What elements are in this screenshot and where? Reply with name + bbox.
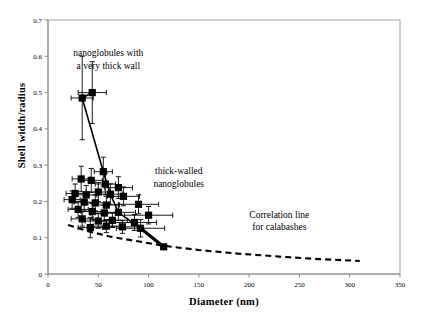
data-point-marker xyxy=(102,180,109,187)
data-point-marker xyxy=(137,225,144,232)
data-point-marker xyxy=(135,201,142,208)
annotation-thick-walled-nanoglobules: thick-walled xyxy=(155,166,203,176)
x-tick-label: 150 xyxy=(194,281,205,289)
data-point-marker xyxy=(72,190,79,197)
x-tick-label: 200 xyxy=(244,281,255,289)
data-point-marker xyxy=(81,199,88,206)
data-point-marker xyxy=(119,223,126,230)
annotation-nanoglobules-thick-wall: a very thick wall xyxy=(77,61,141,71)
y-tick-label: 0.7 xyxy=(33,17,42,25)
data-point-marker xyxy=(89,89,96,96)
data-point-marker xyxy=(107,191,114,198)
y-tick-label: 0.1 xyxy=(33,234,42,242)
data-point-marker xyxy=(95,188,102,195)
y-tick-label: 0 xyxy=(39,271,43,279)
tick-marks xyxy=(45,20,401,278)
x-axis-title: Diameter (nm) xyxy=(48,296,400,307)
data-point-marker xyxy=(79,94,86,101)
data-point-marker xyxy=(95,217,102,224)
x-tick-label: 350 xyxy=(395,281,406,289)
y-tick-label: 0.5 xyxy=(33,89,42,97)
x-tick-label: 0 xyxy=(46,281,50,289)
data-point-marker xyxy=(75,206,82,213)
annotation-correlation-line-calabashes: Correlation line xyxy=(249,210,309,220)
data-point-marker xyxy=(160,243,167,250)
data-point-marker xyxy=(103,201,110,208)
data-point-marker xyxy=(103,223,110,230)
y-tick-label: 0.6 xyxy=(33,53,42,61)
annotation-thick-walled-nanoglobules: nanoglobules xyxy=(153,179,204,189)
annotation-correlation-line-calabashes: for calabashes xyxy=(252,222,306,232)
x-tick-label: 50 xyxy=(95,281,103,289)
scatter-plot: 00.10.20.30.40.50.60.7050100150200250300… xyxy=(0,0,425,323)
correlation-line xyxy=(68,225,360,261)
data-point-marker xyxy=(92,199,99,206)
data-point-marker xyxy=(100,168,107,175)
data-point-marker xyxy=(88,177,95,184)
data-point-marker xyxy=(79,215,86,222)
x-tick-label: 300 xyxy=(344,281,355,289)
data-point-marker xyxy=(145,212,152,219)
x-tick-label: 250 xyxy=(294,281,305,289)
data-point-marker xyxy=(101,209,108,216)
data-point-marker xyxy=(83,191,90,198)
data-point-marker xyxy=(115,209,122,216)
chart-figure: Shell width/radius 00.10.20.30.40.50.60.… xyxy=(0,0,425,323)
annotation-nanoglobules-thick-wall: nanoglobules with xyxy=(73,48,143,58)
y-tick-label: 0.4 xyxy=(33,125,42,133)
data-point-marker xyxy=(87,224,94,231)
y-tick-label: 0.2 xyxy=(33,198,42,206)
x-tick-label: 100 xyxy=(143,281,154,289)
data-point-marker xyxy=(69,196,76,203)
data-point-marker xyxy=(89,208,96,215)
data-point-marker xyxy=(115,184,122,191)
data-point-marker xyxy=(78,175,85,182)
data-point-marker xyxy=(120,193,127,200)
y-tick-label: 0.3 xyxy=(33,162,42,170)
